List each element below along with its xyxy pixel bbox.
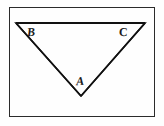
geometry-figure bbox=[0, 0, 164, 126]
vertex-label-b: B bbox=[27, 26, 36, 39]
figure-container: B C A bbox=[0, 0, 164, 126]
vertex-label-c: C bbox=[119, 26, 128, 38]
triangle-edge-ba bbox=[16, 23, 81, 96]
triangle-edge-ca bbox=[81, 23, 145, 96]
vertex-label-a: A bbox=[76, 75, 85, 87]
